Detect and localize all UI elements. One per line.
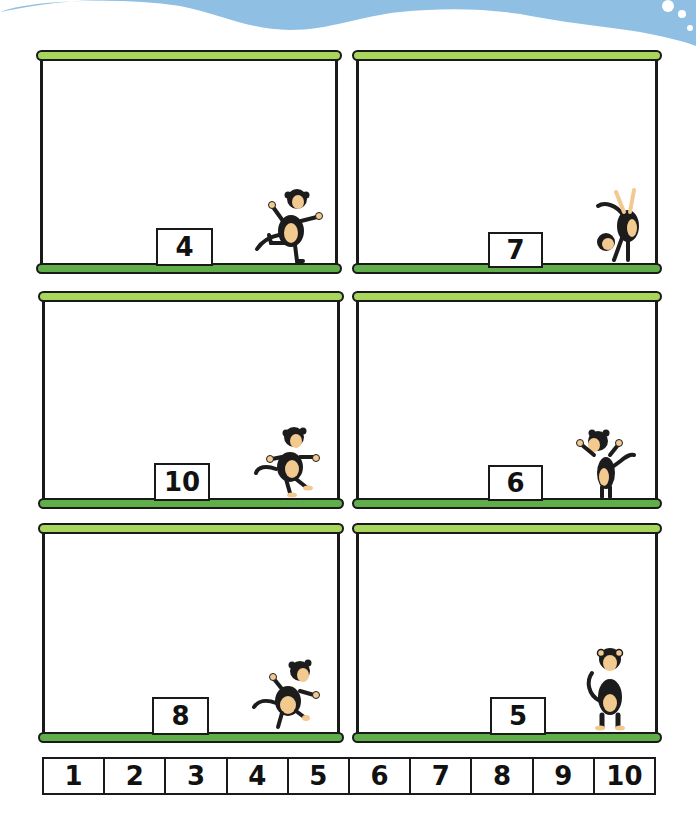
number-cell-6[interactable]: 6 (350, 759, 411, 793)
panel-4: 6 (352, 291, 662, 509)
monkey-waving-icon (572, 425, 642, 501)
number-card[interactable]: 6 (488, 465, 543, 501)
panel-top-bar (38, 291, 344, 302)
panel-1: 4 (36, 50, 342, 274)
panel-top-bar (38, 523, 344, 534)
number-cell-8[interactable]: 8 (472, 759, 533, 793)
monkey-standing-icon (580, 641, 640, 731)
number-line: 1 2 3 4 5 6 7 8 9 10 (42, 757, 656, 795)
panel-3: 10 (38, 291, 344, 509)
panel-top-bar (352, 523, 662, 534)
number-cell-2[interactable]: 2 (105, 759, 166, 793)
number-cell-1[interactable]: 1 (44, 759, 105, 793)
number-cell-9[interactable]: 9 (534, 759, 595, 793)
monkey-running-icon (250, 421, 330, 501)
number-cell-5[interactable]: 5 (289, 759, 350, 793)
panel-top-bar (352, 291, 662, 302)
number-card[interactable]: 5 (490, 697, 546, 735)
panel-top-bar (352, 50, 662, 61)
number-card[interactable]: 7 (488, 232, 543, 268)
number-cell-7[interactable]: 7 (411, 759, 472, 793)
number-cell-4[interactable]: 4 (228, 759, 289, 793)
number-cell-10[interactable]: 10 (595, 759, 654, 793)
monkey-handstand-icon (584, 186, 654, 266)
number-card[interactable]: 10 (154, 463, 210, 501)
panel-6: 5 (352, 523, 662, 743)
panel-top-bar (36, 50, 342, 61)
number-card[interactable]: 4 (156, 228, 213, 266)
water-wave-decoration (0, 0, 696, 50)
panel-5: 8 (38, 523, 344, 743)
monkey-dancing-icon (251, 185, 331, 265)
number-card[interactable]: 8 (152, 697, 209, 735)
panel-2: 7 (352, 50, 662, 274)
number-cell-3[interactable]: 3 (166, 759, 227, 793)
monkey-skipping-icon (248, 653, 328, 733)
